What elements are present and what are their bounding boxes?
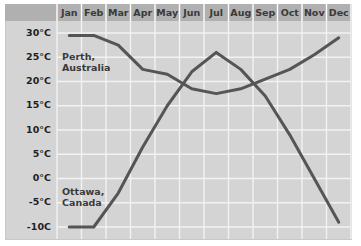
month-header-sep: Sep (255, 7, 275, 18)
y-axis-tick-labels: 30°C25°C20°C15°C10°C5°C0°C-5°C-10C (26, 27, 51, 232)
month-header-jun: Jun (182, 7, 200, 18)
y-tick-label: 25°C (26, 51, 51, 62)
y-tick-label: 0°C (33, 172, 51, 183)
y-tick-label: 15°C (26, 99, 51, 110)
month-header-aug: Aug (230, 7, 251, 18)
y-tick-label: 5°C (33, 148, 51, 159)
series-label-ottawa: Ottawa, (62, 186, 104, 197)
y-tick-label: 10°C (26, 124, 51, 135)
month-header-mar: Mar (108, 7, 129, 18)
month-header-oct: Oct (281, 7, 300, 18)
month-header-may: May (156, 7, 179, 18)
month-header-feb: Feb (84, 7, 104, 18)
y-tick-label: 30°C (26, 27, 51, 38)
series-inline-labels: Perth,AustraliaOttawa,Canada (62, 51, 110, 208)
chart-canvas: 30°C25°C20°C15°C10°C5°C0°C-5°C-10C JanFe… (0, 0, 361, 246)
month-header-nov: Nov (304, 7, 325, 18)
y-tick-label: -10C (27, 221, 51, 232)
temperature-line-chart: 30°C25°C20°C15°C10°C5°C0°C-5°C-10C JanFe… (0, 0, 361, 246)
month-header-dec: Dec (329, 7, 349, 18)
y-tick-label: 20°C (26, 75, 51, 86)
series-label-perth: Australia (62, 62, 110, 73)
series-label-ottawa: Canada (62, 197, 102, 208)
y-tick-label: -5°C (29, 196, 51, 207)
month-header-jan: Jan (60, 7, 78, 18)
series-label-perth: Perth, (62, 51, 95, 62)
month-header-apr: Apr (133, 7, 152, 18)
month-header-jul: Jul (208, 7, 223, 18)
